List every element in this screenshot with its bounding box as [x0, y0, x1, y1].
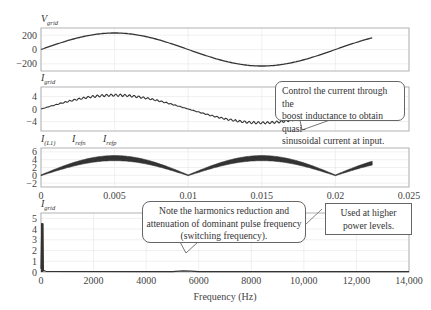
- callout-line-2: attenuation of dominant pulse frequency: [145, 218, 303, 231]
- axis-label: Vgrid: [41, 13, 59, 26]
- y-tick-label: 4: [32, 224, 37, 235]
- callout-control-current: Control the current through the boost in…: [275, 81, 405, 121]
- callout-line-2: boost inductance to obtain quasi-: [282, 110, 398, 135]
- x-tick-label: 0.02: [327, 190, 345, 201]
- axis-label: Igrid: [40, 198, 56, 211]
- x-tick-label: 0.015: [251, 190, 274, 201]
- x-tick-label: 0.005: [103, 190, 126, 201]
- x-tick-label: 6000: [189, 275, 209, 286]
- callout-line-2: power levels.: [328, 220, 409, 233]
- y-tick-label: 0: [32, 104, 37, 115]
- trace-il1-band: [41, 156, 372, 176]
- y-tick-label: −200: [16, 58, 37, 69]
- figure: 2000−200Vgrid40−4Igrid6420−200.0050.010.…: [0, 0, 431, 310]
- chart-panel-1: 2000−200Vgrid: [16, 13, 409, 71]
- x-tick-label: 0.01: [179, 190, 197, 201]
- axis-label: Irefp: [102, 133, 117, 146]
- axis-label: Irefn: [71, 133, 86, 146]
- callout-line-1: Used at higher: [328, 207, 409, 220]
- axis-label: I(L1): [40, 133, 56, 147]
- callout-pointer-harmonics: [180, 242, 198, 253]
- x-tick-label: 12,000: [343, 275, 371, 286]
- x-tick-label: 8000: [241, 275, 261, 286]
- fundamental-spike: [41, 224, 44, 272]
- y-tick-label: 3: [32, 234, 37, 245]
- x-axis-title: Frequency (Hz): [193, 291, 256, 303]
- x-tick-label: 10,000: [290, 275, 318, 286]
- x-tick-label: 0.025: [398, 190, 421, 201]
- y-tick-label: 0: [32, 267, 37, 278]
- x-tick-label: 0: [39, 275, 44, 286]
- callout-line-1: Control the current through the: [282, 85, 398, 110]
- x-tick-label: 2000: [84, 275, 104, 286]
- axis-label: Igrid: [40, 72, 56, 85]
- y-tick-label: 5: [32, 213, 37, 224]
- callout-higher-power: Used at higher power levels.: [325, 203, 412, 235]
- callout-pointer-power: [305, 209, 322, 225]
- callout-line-3: (switching frequency).: [145, 230, 303, 243]
- callout-line-1: Note the harmonics reduction and: [145, 205, 303, 218]
- callout-harmonics: Note the harmonics reduction and attenua…: [142, 201, 306, 243]
- y-tick-label: 0: [32, 44, 37, 55]
- y-tick-label: −2: [26, 178, 37, 189]
- y-tick-label: 1: [32, 256, 37, 267]
- y-tick-label: 2: [32, 245, 37, 256]
- callout-line-3: sinusoidal current at input.: [282, 135, 398, 148]
- x-tick-label: 14,000: [395, 275, 423, 286]
- y-tick-label: 4: [32, 91, 37, 102]
- x-tick-label: 4000: [136, 275, 156, 286]
- y-tick-label: −4: [26, 116, 37, 127]
- y-tick-label: 200: [22, 30, 37, 41]
